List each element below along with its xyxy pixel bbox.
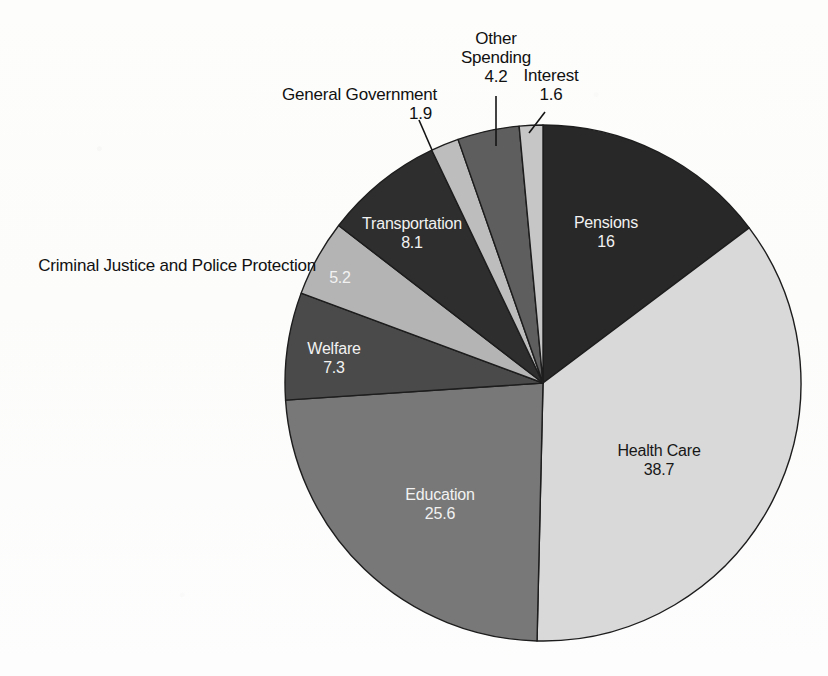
callout-general-government: General Government 1.9 (282, 85, 432, 123)
slice-label-education-name: Education (405, 485, 474, 504)
callout-general-government-name: General Government (282, 85, 432, 104)
callout-other-spending-line1: Other (441, 29, 551, 48)
slice-label-health-care: Health Care 38.7 (617, 441, 700, 479)
slice-label-welfare: Welfare 7.3 (307, 339, 360, 377)
callout-other-spending-line2: Spending (441, 48, 551, 67)
callout-criminal-justice-label: Criminal Justice and Police Protection (16, 256, 316, 275)
slice-label-education-value: 25.6 (405, 504, 474, 523)
slice-value-criminal-justice: 5.2 (329, 268, 351, 287)
slice-label-welfare-name: Welfare (307, 339, 360, 358)
callout-interest-value: 1.6 (512, 85, 590, 104)
slice-label-criminal-justice-value: 5.2 (329, 268, 351, 287)
slice-label-pensions: Pensions 16 (574, 213, 638, 251)
slice-label-transportation-name: Transportation (362, 214, 462, 233)
leader-line-general-government (419, 120, 432, 150)
slice-label-pensions-value: 16 (574, 232, 638, 251)
slice-label-health-care-value: 38.7 (617, 460, 700, 479)
slice-label-education: Education 25.6 (405, 485, 474, 523)
callout-interest-name: Interest (512, 66, 590, 85)
slice-label-welfare-value: 7.3 (307, 358, 360, 377)
callout-criminal-justice-name: Criminal Justice and Police Protection (16, 256, 316, 275)
callout-interest: Interest 1.6 (512, 66, 590, 104)
slice-label-transportation-value: 8.1 (362, 233, 462, 252)
callout-general-government-value: 1.9 (282, 104, 432, 123)
pie-chart: General Government 1.9 Other Spending 4.… (0, 0, 828, 676)
slice-label-pensions-name: Pensions (574, 213, 638, 232)
slice-label-transportation: Transportation 8.1 (362, 214, 462, 252)
slice-label-health-care-name: Health Care (617, 441, 700, 460)
